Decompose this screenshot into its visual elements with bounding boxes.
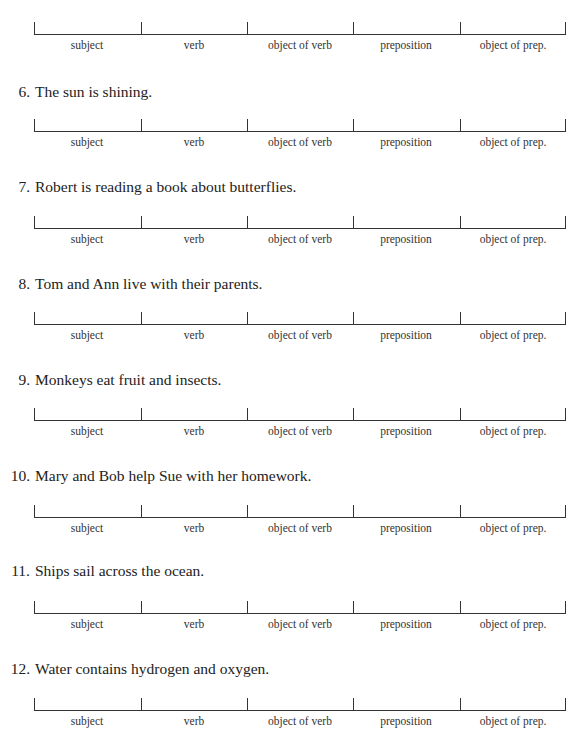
diagram-slot-label: preposition — [353, 522, 459, 535]
diagram-slot-label: object of prep. — [460, 425, 566, 438]
sentence-text: Water contains hydrogen and oxygen. — [35, 660, 269, 678]
sentence-diagram-line: subjectverbobject of verbprepositionobje… — [34, 698, 566, 728]
diagram-divider-tick — [141, 698, 142, 711]
exercise-number: 10. — [0, 467, 30, 485]
diagram-divider-tick — [141, 216, 142, 229]
diagram-baseline — [34, 613, 566, 614]
diagram-divider-tick — [460, 312, 461, 325]
diagram-slot-label: verb — [141, 522, 247, 535]
diagram-slot-label: object of verb — [247, 425, 353, 438]
diagram-slot-label: verb — [141, 233, 247, 246]
diagram-divider-tick — [460, 22, 461, 35]
sentence-diagram-line: subjectverbobject of verbprepositionobje… — [34, 408, 566, 438]
diagram-divider-tick — [353, 22, 354, 35]
diagram-baseline — [34, 420, 566, 421]
diagram-divider-tick — [460, 505, 461, 518]
diagram-divider-tick — [565, 408, 566, 421]
diagram-divider-tick — [565, 119, 566, 132]
diagram-divider-tick — [353, 601, 354, 614]
exercise-number: 12. — [0, 660, 30, 678]
diagram-divider-tick — [34, 119, 35, 132]
diagram-slot-label: subject — [34, 618, 140, 631]
diagram-baseline — [34, 710, 566, 711]
diagram-divider-tick — [565, 312, 566, 325]
diagram-slot-label: object of prep. — [460, 715, 566, 728]
diagram-divider-tick — [247, 312, 248, 325]
diagram-divider-tick — [34, 408, 35, 421]
sentence-text: Robert is reading a book about butterfli… — [35, 178, 296, 196]
diagram-slot-label: preposition — [353, 136, 459, 149]
diagram-slot-label: subject — [34, 329, 140, 342]
sentence-text: Monkeys eat fruit and insects. — [35, 371, 221, 389]
diagram-divider-tick — [460, 408, 461, 421]
diagram-slot-label: preposition — [353, 715, 459, 728]
diagram-slot-label: verb — [141, 618, 247, 631]
exercise-number: 11. — [0, 562, 30, 580]
diagram-divider-tick — [34, 216, 35, 229]
diagram-divider-tick — [141, 408, 142, 421]
diagram-divider-tick — [247, 505, 248, 518]
diagram-divider-tick — [565, 698, 566, 711]
diagram-divider-tick — [353, 119, 354, 132]
diagram-divider-tick — [34, 698, 35, 711]
sentence-diagram-line: subjectverbobject of verbprepositionobje… — [34, 216, 566, 246]
diagram-slot-label: subject — [34, 39, 140, 52]
diagram-divider-tick — [460, 216, 461, 229]
diagram-divider-tick — [247, 119, 248, 132]
diagram-slot-label: object of prep. — [460, 522, 566, 535]
diagram-divider-tick — [247, 22, 248, 35]
sentence-diagram-line: subjectverbobject of verbprepositionobje… — [34, 601, 566, 631]
diagram-slot-label: object of verb — [247, 136, 353, 149]
diagram-slot-label: preposition — [353, 39, 459, 52]
diagram-slot-label: subject — [34, 715, 140, 728]
diagram-baseline — [34, 34, 566, 35]
exercise-number: 7. — [0, 178, 30, 196]
diagram-divider-tick — [353, 216, 354, 229]
diagram-slot-label: object of prep. — [460, 136, 566, 149]
diagram-divider-tick — [141, 312, 142, 325]
diagram-divider-tick — [565, 216, 566, 229]
diagram-divider-tick — [460, 119, 461, 132]
exercise-number: 6. — [0, 83, 30, 101]
diagram-slot-label: verb — [141, 329, 247, 342]
diagram-divider-tick — [247, 601, 248, 614]
diagram-divider-tick — [353, 505, 354, 518]
diagram-slot-label: object of prep. — [460, 233, 566, 246]
diagram-divider-tick — [353, 698, 354, 711]
diagram-baseline — [34, 517, 566, 518]
diagram-divider-tick — [34, 22, 35, 35]
diagram-slot-label: object of prep. — [460, 618, 566, 631]
diagram-slot-label: subject — [34, 522, 140, 535]
diagram-divider-tick — [565, 505, 566, 518]
diagram-divider-tick — [247, 216, 248, 229]
diagram-divider-tick — [247, 408, 248, 421]
diagram-divider-tick — [353, 408, 354, 421]
diagram-divider-tick — [141, 119, 142, 132]
sentence-diagram-line: subjectverbobject of verbprepositionobje… — [34, 312, 566, 342]
diagram-slot-label: subject — [34, 136, 140, 149]
diagram-divider-tick — [565, 601, 566, 614]
exercise-number: 9. — [0, 371, 30, 389]
sentence-text: Ships sail across the ocean. — [35, 562, 204, 580]
diagram-slot-label: preposition — [353, 618, 459, 631]
diagram-slot-label: object of verb — [247, 522, 353, 535]
diagram-divider-tick — [34, 601, 35, 614]
diagram-divider-tick — [141, 601, 142, 614]
diagram-divider-tick — [460, 698, 461, 711]
diagram-divider-tick — [460, 601, 461, 614]
diagram-baseline — [34, 324, 566, 325]
diagram-slot-label: subject — [34, 233, 140, 246]
diagram-slot-label: preposition — [353, 425, 459, 438]
diagram-slot-label: verb — [141, 39, 247, 52]
sentence-text: Tom and Ann live with their parents. — [35, 275, 263, 293]
diagram-divider-tick — [141, 505, 142, 518]
sentence-diagram-line: subjectverbobject of verbprepositionobje… — [34, 505, 566, 535]
diagram-slot-label: verb — [141, 136, 247, 149]
diagram-slot-label: verb — [141, 715, 247, 728]
diagram-divider-tick — [34, 505, 35, 518]
diagram-baseline — [34, 228, 566, 229]
diagram-slot-label: object of verb — [247, 233, 353, 246]
diagram-slot-label: object of prep. — [460, 329, 566, 342]
exercise-number: 8. — [0, 275, 30, 293]
diagram-divider-tick — [141, 22, 142, 35]
